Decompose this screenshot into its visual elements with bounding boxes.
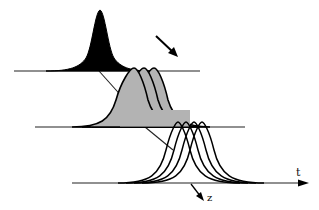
input-pulse-black: [46, 10, 150, 71]
pulse-splitting-diagram: [0, 0, 319, 210]
output-pulses-white: [118, 122, 264, 183]
z-axis-arrow-icon: [191, 184, 204, 201]
grey-fill-base: [120, 110, 190, 127]
t-axis: [72, 180, 309, 187]
t-axis-label: t: [296, 167, 300, 178]
z-axis-label: z: [207, 193, 212, 203]
direction-arrow-icon: [156, 36, 178, 57]
